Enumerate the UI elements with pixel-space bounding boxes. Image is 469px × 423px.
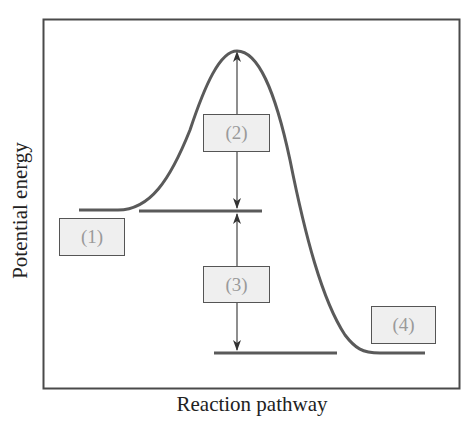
label-1-text: (1) <box>81 226 103 248</box>
y-axis-label-text: Potential energy <box>8 142 33 279</box>
label-box-3: (3) <box>203 266 270 303</box>
label-box-1: (1) <box>59 218 125 256</box>
label-3-text: (3) <box>225 274 247 296</box>
label-2-text: (2) <box>225 122 247 144</box>
label-4-text: (4) <box>392 314 414 336</box>
label-box-4: (4) <box>371 306 436 344</box>
energy-diagram <box>0 0 469 423</box>
label-box-2: (2) <box>203 114 270 152</box>
y-axis-label: Potential energy <box>2 100 38 320</box>
x-axis-label: Reaction pathway <box>43 392 461 417</box>
